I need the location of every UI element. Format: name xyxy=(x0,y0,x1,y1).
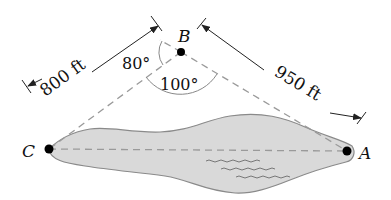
surveying-diagram: B C A 800 ft 950 ft 80° 100° xyxy=(0,0,391,200)
point-A xyxy=(343,147,352,156)
label-B: B xyxy=(177,26,191,46)
point-B xyxy=(177,48,185,56)
angle-label-80: 80° xyxy=(122,54,150,73)
dimension-label-800ft: 800 ft xyxy=(36,54,89,100)
point-C xyxy=(45,145,54,154)
label-A: A xyxy=(357,143,371,163)
label-C: C xyxy=(22,141,35,161)
lake xyxy=(49,114,354,193)
angle-label-100: 100° xyxy=(160,75,199,94)
dimension-label-950ft: 950 ft xyxy=(271,61,325,104)
